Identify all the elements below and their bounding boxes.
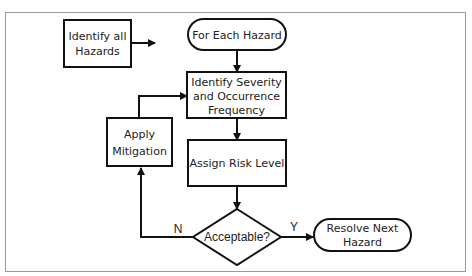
yes-label: Y [290, 220, 298, 234]
for-each-hazard-label: For Each Hazard [192, 29, 282, 42]
assign-risk-box: Assign Risk Level [188, 140, 286, 186]
apply-mitigation-line1: Apply [124, 128, 156, 141]
identify-severity-line2: and Occurrence [193, 90, 280, 103]
for-each-hazard-terminal: For Each Hazard [188, 19, 286, 50]
identify-hazards-box: Identify all Hazards [64, 20, 131, 67]
resolve-next-line2: Hazard [343, 236, 382, 249]
identify-severity-box: Identify Severity and Occurrence Frequen… [187, 72, 286, 118]
no-label: N [174, 222, 183, 236]
apply-mitigation-box: Apply Mitigation [107, 118, 172, 166]
flowchart: Identify all Hazards For Each Hazard Ide… [0, 0, 472, 276]
identify-severity-line3: Frequency [208, 104, 265, 117]
arrow-mitigation-to-severity [139, 96, 187, 118]
acceptable-label: Acceptable? [204, 230, 270, 244]
apply-mitigation-line2: Mitigation [112, 145, 167, 158]
identify-hazards-line1: Identify all [69, 30, 127, 43]
resolve-next-line1: Resolve Next [327, 222, 400, 235]
acceptable-decision: Acceptable? [193, 209, 281, 265]
identify-severity-line1: Identify Severity [191, 76, 282, 89]
arrow-no-to-mitigation [141, 168, 193, 237]
identify-hazards-line2: Hazards [75, 45, 120, 58]
resolve-next-hazard-terminal: Resolve Next Hazard [314, 219, 411, 251]
assign-risk-label: Assign Risk Level [190, 157, 285, 170]
